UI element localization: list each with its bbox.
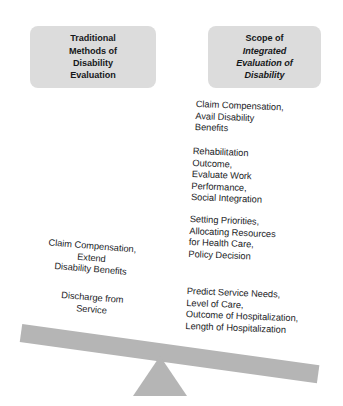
right-pan-header-box: Scope of Integrated Evaluation of Disabi…: [208, 26, 321, 88]
right-pan-item-1: Claim Compensation, Avail Disability Ben…: [195, 99, 284, 137]
right-pan-item-2: Rehabilitation Outcome, Evaluate Work Pe…: [191, 146, 264, 207]
right-item-2-line-5: Social Integration: [191, 192, 262, 206]
right-item-1-line-3: Benefits: [195, 122, 283, 137]
right-header-line-1: Scope of: [246, 32, 284, 44]
right-item-3-line-4: Policy Decision: [188, 249, 275, 264]
left-pan-item-1: Claim Compensation, Extend Disability Be…: [28, 236, 154, 281]
left-header-line-3: Disability: [73, 57, 113, 69]
balance-diagram: Traditional Methods of Disability Evalua…: [0, 0, 343, 406]
right-header-line-4: Disability: [245, 69, 285, 81]
left-header-line-1: Traditional: [70, 32, 115, 44]
right-pan-item-3: Setting Priorities, Allocating Resources…: [188, 214, 276, 264]
right-header-line-2: Integrated: [243, 45, 286, 57]
left-header-line-4: Evaluation: [70, 69, 115, 81]
right-pan-item-4: Predict Service Needs, Level of Care, Ou…: [185, 286, 299, 337]
left-pan-item-2: Discharge from Service: [35, 288, 148, 320]
left-header-line-2: Methods of: [69, 45, 117, 57]
fulcrum-triangle-icon: [133, 356, 187, 396]
right-header-line-3: Evaluation of: [236, 57, 292, 69]
left-pan-header-box: Traditional Methods of Disability Evalua…: [30, 26, 156, 88]
